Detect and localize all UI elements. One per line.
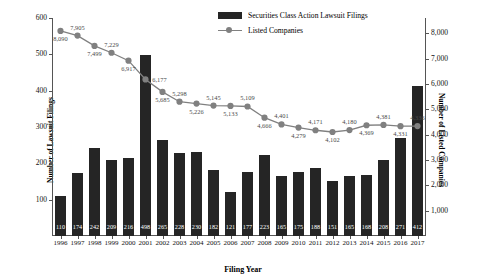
line-value-label: 4,331 — [393, 131, 407, 137]
x-axis-tick-label: 2014 — [360, 240, 374, 247]
y-axis-right-tick-label: 8,000 — [431, 29, 448, 37]
x-axis-tick-label: 2006 — [224, 240, 238, 247]
x-axis-tick-label: 2013 — [343, 240, 357, 247]
line-value-label: 4,666 — [257, 123, 271, 129]
line-value-label: 7,905 — [70, 25, 84, 31]
x-axis-tick-label: 1999 — [105, 240, 119, 247]
x-axis-tick-label: 2011 — [309, 240, 323, 247]
x-axis-tick-label: 2015 — [377, 240, 391, 247]
x-axis-tick-label: 2008 — [258, 240, 272, 247]
line-value-label: 6,177 — [152, 77, 166, 83]
x-axis-tick-label: 1997 — [71, 240, 85, 247]
x-axis-tick-label: 2012 — [326, 240, 340, 247]
x-axis-tick-label: 2010 — [292, 240, 306, 247]
x-axis-tick-label: 2003 — [173, 240, 187, 247]
line-value-label: 5,298 — [172, 91, 186, 97]
y-axis-right-tick — [426, 59, 429, 60]
line-value-label: 5,145 — [206, 95, 220, 101]
x-axis-tick-label: 2009 — [275, 240, 289, 247]
x-axis-tick-label: 2001 — [139, 240, 153, 247]
y-axis-left-tick-label: 500 — [36, 51, 47, 59]
y-axis-right-tick-label: 1,000 — [431, 207, 448, 215]
line-value-label: 4,401 — [274, 113, 288, 119]
y-axis-right-tick — [426, 211, 429, 212]
line-value-label: 4,279 — [291, 133, 305, 139]
line-value-label: 4,171 — [308, 119, 322, 125]
y-axis-right-tick — [426, 33, 429, 34]
x-axis-tick-label: 2016 — [394, 240, 408, 247]
y-axis-right-tick — [426, 185, 429, 186]
line-value-label: 5,133 — [223, 111, 237, 117]
y-axis-left-tick-label: 400 — [36, 87, 47, 95]
x-axis-tick-label: 2004 — [190, 240, 204, 247]
x-axis-tick-label: 2007 — [241, 240, 255, 247]
y-axis-left-tick — [49, 200, 52, 201]
y-axis-right-tick-label: 7,000 — [431, 55, 448, 63]
y-axis-left-tick — [49, 127, 52, 128]
y-axis-left-tick — [49, 163, 52, 164]
x-axis-tick-label: 2000 — [122, 240, 136, 247]
x-axis-tick-label: 2017 — [411, 240, 425, 247]
y-axis-right-tick-label: 6,000 — [431, 80, 448, 88]
y-axis-left-tick — [49, 91, 52, 92]
line-value-label: 4,336 — [410, 115, 424, 121]
line-value-label: 4,102 — [325, 137, 339, 143]
y-axis-left-tick — [49, 54, 52, 55]
line-value-label: 5,109 — [240, 95, 254, 101]
securities-lawsuit-filings-chart: Securities Class Action Lawsuit Filings … — [0, 0, 486, 280]
line-value-label: 5,226 — [189, 109, 203, 115]
line-value-label: 4,369 — [359, 130, 373, 136]
x-axis-tick-label: 1998 — [88, 240, 102, 247]
y-axis-right-tick-label: 5,000 — [431, 106, 448, 114]
line-value-label: 5,685 — [155, 97, 169, 103]
y-axis-right-tick — [426, 84, 429, 85]
x-axis-tick-label: 1996 — [54, 240, 68, 247]
line-value-label: 8,090 — [53, 36, 67, 42]
y-axis-right-tick-label: 4,000 — [431, 131, 448, 139]
ticks-layer: 1002003004005006001,0002,0003,0004,0005,… — [52, 18, 426, 236]
y-axis-right-tick — [426, 160, 429, 161]
y-axis-left-tick-label: 600 — [36, 14, 47, 22]
line-value-label: 4,381 — [376, 114, 390, 120]
x-axis-title: Filing Year — [0, 266, 486, 274]
line-value-label: 4,180 — [342, 119, 356, 125]
y-axis-left-tick — [49, 18, 52, 19]
y-axis-left-tick-label: 100 — [36, 196, 47, 204]
line-value-label: 7,229 — [104, 42, 118, 48]
y-axis-right-tick-label: 2,000 — [431, 182, 448, 190]
y-axis-right-tick — [426, 109, 429, 110]
y-axis-left-tick-label: 200 — [36, 160, 47, 168]
y-axis-right-tick — [426, 135, 429, 136]
line-value-label: 7,499 — [87, 51, 101, 57]
x-axis-tick-label: 2002 — [156, 240, 170, 247]
line-value-label: 6,917 — [121, 66, 135, 72]
y-axis-right-tick-label: 3,000 — [431, 156, 448, 164]
y-axis-left-tick-label: 300 — [36, 123, 47, 131]
x-axis-tick-label: 2005 — [207, 240, 221, 247]
plot-area: 1101742422092164982652282301821211772231… — [52, 18, 426, 236]
